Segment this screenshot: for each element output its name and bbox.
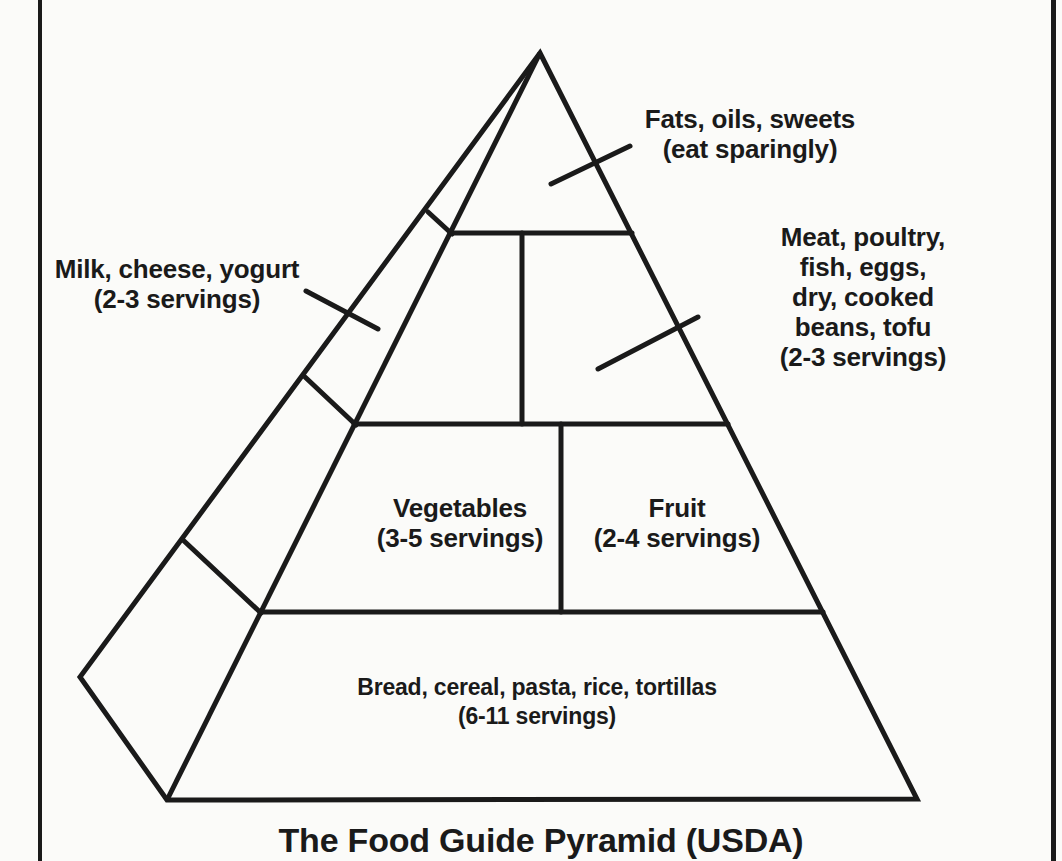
pyramid-line-art [0, 0, 1062, 861]
label-vegetables: Vegetables (3-5 servings) [377, 493, 543, 553]
side-face-divider-bottom [183, 540, 261, 613]
side-face-divider-middle [305, 377, 356, 425]
label-milk-cheese-yogurt: Milk, cheese, yogurt (2-3 servings) [55, 254, 300, 314]
label-bread-cereal: Bread, cereal, pasta, rice, tortillas (6… [357, 673, 717, 731]
label-fruit: Fruit (2-4 servings) [594, 493, 760, 553]
figure-title: The Food Guide Pyramid (USDA) [278, 821, 803, 859]
side-face-divider-top [428, 212, 452, 234]
label-fats-oils-sweets: Fats, oils, sweets (eat sparingly) [645, 104, 855, 164]
label-meat-poultry-fish: Meat, poultry, fish, eggs, dry, cooked b… [764, 222, 963, 372]
scanned-page: Fats, oils, sweets (eat sparingly) Milk,… [0, 0, 1062, 861]
meat-pointer-line [598, 317, 698, 369]
